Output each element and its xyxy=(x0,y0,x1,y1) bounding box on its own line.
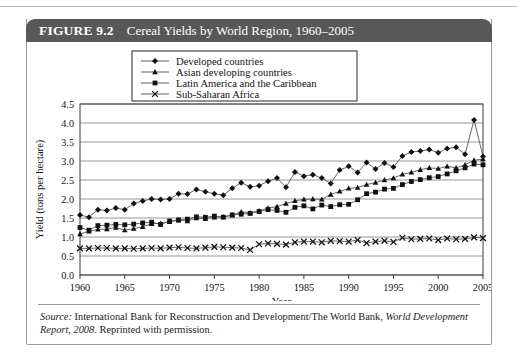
source-body: International Bank for Reconstruction an… xyxy=(72,311,386,322)
source-suffix: . Reprinted with permission. xyxy=(94,324,212,335)
legend-label: Latin America and the Caribbean xyxy=(176,78,317,89)
x-tick-label: 1975 xyxy=(204,282,224,293)
source-note: Source: International Bank for Reconstru… xyxy=(40,310,472,337)
x-axis-title: Year xyxy=(272,296,292,301)
y-axis-title: Yield (tons per hectare) xyxy=(34,139,46,239)
x-tick-label: 1960 xyxy=(70,282,90,293)
y-tick-label: 0.0 xyxy=(61,270,74,281)
source-divider xyxy=(38,304,480,305)
x-tick-label: 1985 xyxy=(294,282,314,293)
y-tick-label: 3.5 xyxy=(61,137,74,148)
y-tick-label: 2.0 xyxy=(61,194,74,205)
series-asian-developing-countries xyxy=(77,156,486,236)
x-tick-label: 1980 xyxy=(249,282,269,293)
legend-label: Sub-Saharan Africa xyxy=(176,89,260,100)
y-tick-label: 2.5 xyxy=(61,175,74,186)
figure-number: FIGURE 9.2 xyxy=(39,23,114,39)
y-tick-label: 0.5 xyxy=(61,251,74,262)
x-tick-label: 1995 xyxy=(383,282,403,293)
cereal-yields-line-chart: 0.00.51.01.52.02.53.03.54.04.51960196519… xyxy=(27,43,491,301)
x-tick-label: 2005 xyxy=(473,282,491,293)
figure-title: Cereal Yields by World Region, 1960–2005 xyxy=(127,23,354,39)
y-tick-label: 4.5 xyxy=(61,99,74,110)
series-latin-america-and-the-caribbean xyxy=(78,162,486,233)
chart-area: 0.00.51.01.52.02.53.03.54.04.51960196519… xyxy=(27,43,491,301)
x-tick-label: 2000 xyxy=(428,282,448,293)
legend-label: Asian developing countries xyxy=(176,67,292,78)
y-tick-label: 4.0 xyxy=(61,118,74,129)
figure-page: FIGURE 9.2 Cereal Yields by World Region… xyxy=(0,0,517,359)
x-tick-label: 1970 xyxy=(159,282,179,293)
y-tick-label: 3.0 xyxy=(61,156,74,167)
x-tick-label: 1990 xyxy=(338,282,358,293)
y-tick-label: 1.0 xyxy=(61,232,74,243)
legend-label: Developed countries xyxy=(176,56,263,67)
figure-header: FIGURE 9.2 Cereal Yields by World Region… xyxy=(26,19,492,42)
source-prefix: Source: xyxy=(40,311,72,322)
page-top-rule xyxy=(0,6,517,7)
plot-frame xyxy=(80,104,483,275)
x-tick-label: 1965 xyxy=(115,282,135,293)
y-tick-label: 1.5 xyxy=(61,213,74,224)
